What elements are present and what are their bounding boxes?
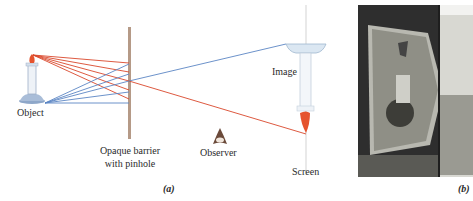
opaque-barrier: [128, 27, 131, 139]
caption-b: (b): [458, 183, 470, 194]
candle-object-icon: [19, 54, 45, 104]
inverted-candle-image-icon: [286, 44, 326, 133]
object-label: Object: [17, 107, 44, 119]
camera-obscura-engraving: [358, 5, 473, 177]
observer-label: Observer: [200, 147, 237, 159]
observer-eye-icon: [213, 128, 227, 144]
red-rays: [33, 55, 306, 134]
barrier-label-line2: with pinhole: [92, 158, 168, 170]
barrier-label-line1: Opaque barrier: [92, 145, 168, 157]
screen-label: Screen: [292, 166, 319, 178]
image-label: Image: [272, 66, 297, 78]
blue-rays: [45, 44, 286, 103]
caption-a: (a): [163, 183, 175, 194]
